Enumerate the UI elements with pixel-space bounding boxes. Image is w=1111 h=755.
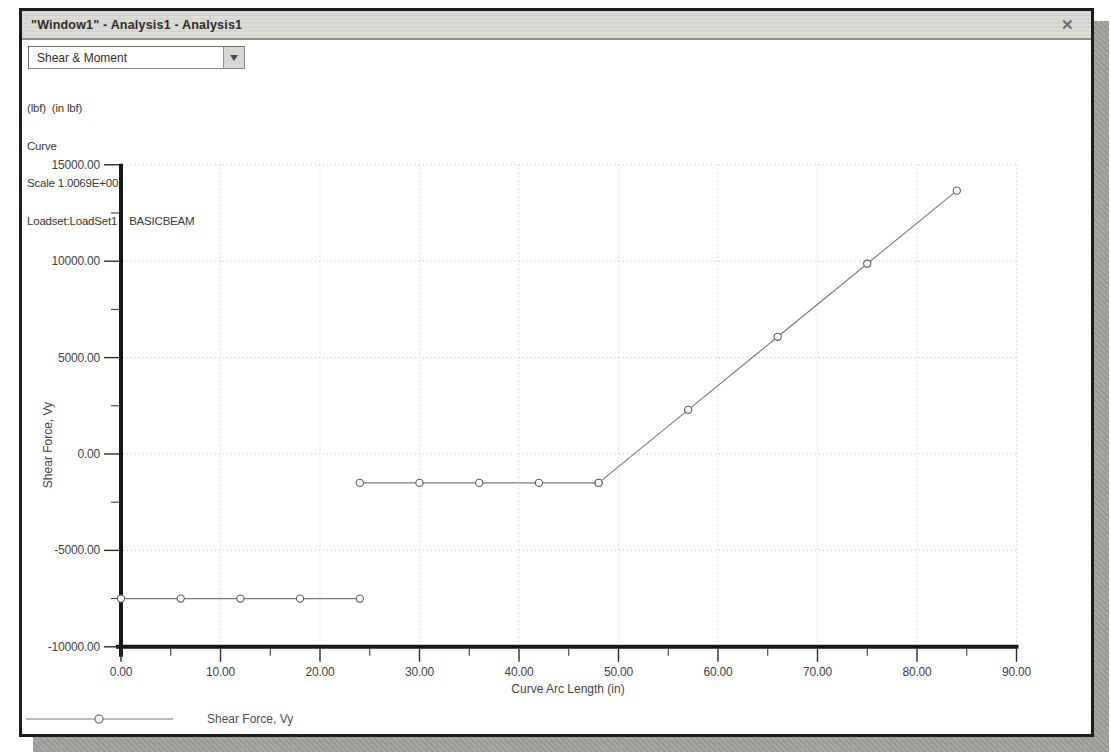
x-tick-label: 20.00 xyxy=(305,665,335,679)
shear-force-plot: 15000.0010000.005000.000.00-5000.00-1000… xyxy=(22,11,1091,734)
data-point-marker xyxy=(864,260,871,267)
page: "Window1" - Analysis1 - Analysis1 ✕ Shea… xyxy=(0,0,1111,755)
legend-marker-icon xyxy=(25,713,175,725)
y-tick-label: -5000.00 xyxy=(54,543,100,557)
y-tick-label: 15000.00 xyxy=(52,158,101,172)
data-point-marker xyxy=(476,479,483,486)
x-axis-title: Curve Arc Length (in) xyxy=(511,682,624,696)
x-tick-label: 50.00 xyxy=(604,665,634,679)
data-point-marker xyxy=(774,333,781,340)
x-tick-label: 70.00 xyxy=(803,665,833,679)
y-tick-label: 0.00 xyxy=(77,447,100,461)
x-tick-label: 80.00 xyxy=(902,665,932,679)
y-tick-label: 10000.00 xyxy=(52,254,101,268)
data-point-marker xyxy=(356,479,363,486)
data-point-marker xyxy=(685,406,692,413)
data-point-marker xyxy=(237,595,244,602)
data-point-marker xyxy=(177,595,184,602)
data-point-marker xyxy=(595,479,602,486)
legend: Shear Force, Vy xyxy=(25,710,293,728)
data-point-marker xyxy=(953,187,960,194)
x-tick-label: 40.00 xyxy=(504,665,534,679)
y-axis-title: Shear Force, Vy xyxy=(41,402,55,488)
data-point-marker xyxy=(117,595,124,602)
data-point-marker xyxy=(535,479,542,486)
x-tick-label: 30.00 xyxy=(405,665,435,679)
result-window: "Window1" - Analysis1 - Analysis1 ✕ Shea… xyxy=(19,8,1094,737)
data-point-marker xyxy=(297,595,304,602)
x-tick-label: 60.00 xyxy=(703,665,733,679)
x-tick-label: 10.00 xyxy=(206,665,236,679)
data-point-marker xyxy=(416,479,423,486)
data-point-marker xyxy=(356,595,363,602)
y-tick-label: 5000.00 xyxy=(58,351,101,365)
y-tick-label: -10000.00 xyxy=(48,640,101,654)
x-tick-label: 0.00 xyxy=(110,665,133,679)
x-tick-label: 90.00 xyxy=(1002,665,1032,679)
legend-label: Shear Force, Vy xyxy=(207,712,293,726)
